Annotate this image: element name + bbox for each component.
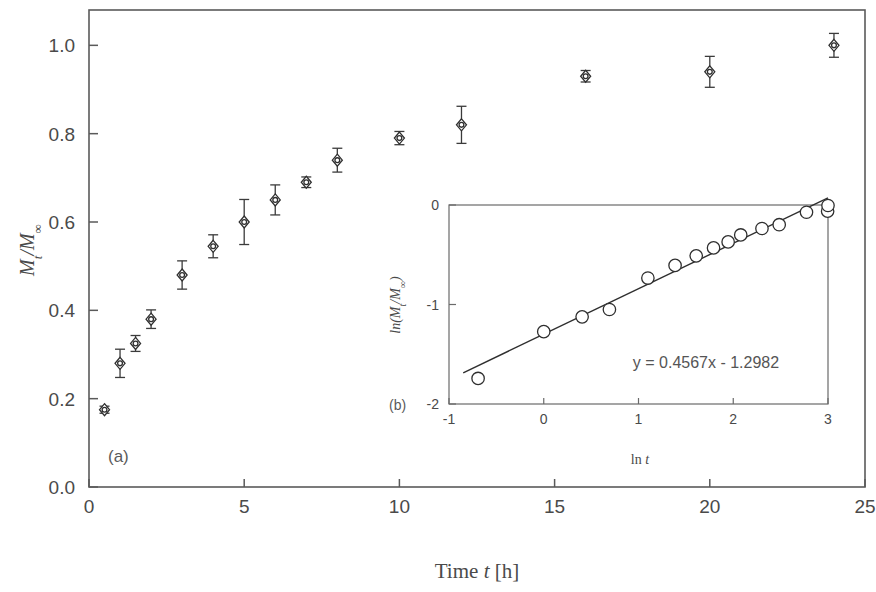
- panel-a-label: (a): [108, 447, 129, 466]
- inset-circle-marker-icon: [822, 199, 834, 211]
- main-x-tick-label: 0: [84, 496, 95, 517]
- inset-plot-panel: -10123 -2-10 y = 0.4567x - 1.2982 (b) ln…: [388, 197, 834, 467]
- inset-y-tick-label: -1: [427, 297, 440, 313]
- main-data-point: [705, 56, 715, 87]
- inset-y-title-lead: ln(M: [388, 305, 404, 334]
- main-data-point: [581, 70, 591, 82]
- inset-x-tick-label: 0: [540, 411, 548, 427]
- svg-text:ln(Mt/M∞): ln(Mt/M∞): [388, 276, 408, 334]
- inset-x-title-lead: ln: [631, 452, 645, 467]
- main-data-point: [332, 148, 342, 172]
- panel-b-label: (b): [389, 397, 406, 413]
- inset-circle-marker-icon: [576, 311, 588, 323]
- main-x-tick-label: 5: [239, 496, 250, 517]
- marker-center-icon: [304, 180, 309, 185]
- inset-x-title-ital: t: [645, 452, 650, 467]
- marker-center-icon: [133, 341, 138, 346]
- marker-center-icon: [242, 220, 247, 225]
- main-x-axis-title: Time t [h]: [435, 559, 519, 583]
- y-title-mid: /M: [16, 232, 38, 257]
- inset-y-axis-ticks: [449, 205, 456, 404]
- inset-x-axis-title: ln t: [631, 452, 650, 467]
- inset-y-title-sup: ∞: [397, 281, 408, 288]
- inset-circle-marker-icon: [538, 325, 550, 337]
- main-data-point: [394, 131, 404, 144]
- inset-x-tick-labels: -10123: [443, 411, 832, 427]
- marker-center-icon: [583, 74, 588, 79]
- figure-container: 0510152025 0.00.20.40.60.81.0 (a) Mt/M∞ …: [0, 0, 876, 592]
- inset-x-tick-label: 3: [824, 411, 832, 427]
- inset-circle-marker-icon: [756, 222, 768, 234]
- inset-y-tick-labels: -2-10: [427, 197, 440, 412]
- main-y-tick-label: 0.0: [49, 477, 75, 498]
- scientific-figure: 0510152025 0.00.20.40.60.81.0 (a) Mt/M∞ …: [0, 0, 876, 592]
- marker-center-icon: [397, 136, 402, 141]
- inset-x-axis-ticks: [449, 398, 828, 404]
- main-y-axis-title: Mt/M∞: [16, 224, 45, 277]
- main-x-tick-labels: 0510152025: [84, 496, 876, 517]
- main-data-point: [239, 199, 249, 244]
- main-y-tick-label: 0.4: [49, 300, 76, 321]
- marker-center-icon: [335, 158, 340, 163]
- inset-circle-marker-icon: [603, 303, 615, 315]
- inset-regression-equation: y = 0.4567x - 1.2982: [633, 354, 779, 371]
- main-data-point: [115, 349, 125, 377]
- main-x-axis-ticks: [89, 479, 865, 487]
- y-title-sup: ∞: [30, 224, 45, 233]
- inset-y-title-mid: /M: [388, 287, 403, 305]
- marker-center-icon: [102, 407, 107, 412]
- inset-circle-marker-icon: [707, 242, 719, 254]
- inset-circle-marker-icon: [642, 272, 654, 284]
- main-y-tick-label: 0.6: [49, 212, 75, 233]
- marker-center-icon: [149, 317, 154, 322]
- main-data-point: [177, 261, 187, 289]
- marker-center-icon: [118, 361, 123, 366]
- main-data-point: [829, 33, 839, 57]
- marker-center-icon: [273, 198, 278, 203]
- main-y-tick-label: 0.2: [49, 389, 75, 410]
- marker-center-icon: [459, 122, 464, 127]
- inset-circle-marker-icon: [472, 372, 484, 384]
- inset-y-axis-title: ln(Mt/M∞): [388, 276, 408, 334]
- main-x-tick-label: 25: [854, 496, 875, 517]
- inset-circle-marker-icon: [800, 206, 812, 218]
- inset-circle-marker-icon: [722, 236, 734, 248]
- y-title-lead: M: [16, 258, 38, 277]
- main-plot-panel: 0510152025 0.00.20.40.60.81.0 (a) Mt/M∞ …: [16, 10, 876, 583]
- main-y-tick-label: 0.8: [49, 124, 75, 145]
- marker-center-icon: [180, 273, 185, 278]
- x-title-lead: Time: [435, 559, 484, 583]
- main-y-tick-labels: 0.00.20.40.60.81.0: [49, 35, 76, 498]
- main-y-tick-label: 1.0: [49, 35, 75, 56]
- main-plot-frame: [89, 10, 865, 487]
- inset-plot-frame: [449, 205, 828, 404]
- main-y-axis-ticks: [89, 45, 98, 487]
- marker-center-icon: [832, 43, 837, 48]
- inset-circle-marker-icon: [669, 259, 681, 271]
- inset-y-tick-label: -2: [427, 396, 440, 412]
- main-data-point: [301, 176, 311, 188]
- main-x-tick-label: 20: [699, 496, 720, 517]
- inset-x-tick-label: 1: [635, 411, 643, 427]
- main-data-point: [100, 404, 110, 416]
- main-data-point: [270, 185, 280, 215]
- main-data-point: [146, 310, 156, 329]
- main-data-point: [208, 235, 218, 258]
- inset-circle-marker-icon: [690, 250, 702, 262]
- main-x-tick-label: 10: [389, 496, 410, 517]
- inset-circle-marker-icon: [735, 229, 747, 241]
- main-data-point: [456, 106, 466, 143]
- inset-y-title-tail: ): [388, 276, 404, 282]
- main-data-point: [131, 336, 141, 352]
- x-title-tail: [h]: [489, 559, 519, 583]
- marker-center-icon: [211, 244, 216, 249]
- inset-x-tick-label: 2: [729, 411, 737, 427]
- inset-y-tick-label: 0: [431, 197, 439, 213]
- svg-text:Mt/M∞: Mt/M∞: [16, 224, 45, 277]
- inset-circle-marker-icon: [773, 219, 785, 231]
- main-x-tick-label: 15: [544, 496, 565, 517]
- inset-x-tick-label: -1: [443, 411, 456, 427]
- marker-center-icon: [707, 69, 712, 74]
